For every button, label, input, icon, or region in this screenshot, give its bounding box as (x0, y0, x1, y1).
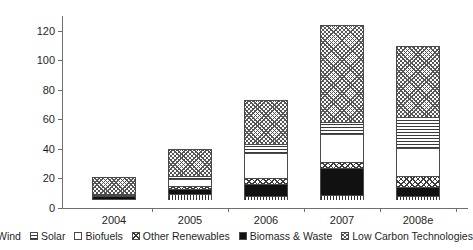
bar-segment (168, 176, 212, 179)
legend-item[interactable]: Other Renewables (132, 231, 230, 242)
x-axis-line (62, 208, 468, 209)
legend-item[interactable]: Wind (0, 231, 21, 242)
y-tick-mark (58, 90, 62, 91)
fine-crosshatch-swatch (341, 232, 349, 240)
bar-segment (320, 195, 364, 200)
x-tick-label: 2005 (178, 214, 202, 226)
x-tick-mark (456, 208, 457, 212)
bar-segment (396, 176, 440, 186)
bar-segment (244, 144, 288, 153)
bar-2004 (92, 177, 136, 200)
y-tick-label: 20 (43, 172, 55, 184)
bar-segment (92, 177, 136, 194)
bar-segment (396, 187, 440, 196)
solid-black-swatch (239, 232, 247, 240)
y-axis-line (62, 16, 63, 208)
bar-segment (244, 100, 288, 144)
x-tick-mark (228, 208, 229, 212)
chart-legend: WindSolarBiofuelsOther RenewablesBiomass… (0, 228, 468, 244)
bar-segment (244, 153, 288, 178)
diagonal-crosshatch-swatch (132, 232, 140, 240)
x-tick-label: 2008e (403, 214, 434, 226)
y-tick-label: 100 (37, 54, 55, 66)
bar-segment (320, 122, 364, 134)
y-tick-label: 80 (43, 84, 55, 96)
legend-item-label: Low Carbon Technologies (352, 231, 473, 242)
legend-item[interactable]: Solar (30, 231, 66, 242)
y-tick-mark (58, 149, 62, 150)
bar-2008e (396, 46, 440, 200)
bar-segment (168, 186, 212, 189)
bar-segment (244, 178, 288, 184)
bar-segment (396, 196, 440, 200)
x-tick-label: 2004 (102, 214, 126, 226)
bar-2007 (320, 25, 364, 200)
y-tick-mark (58, 60, 62, 61)
legend-item-label: Biomass & Waste (250, 231, 332, 242)
legend-item-label: Other Renewables (143, 231, 230, 242)
bar-2006 (244, 100, 288, 200)
horizontal-lines-swatch (30, 232, 38, 240)
y-tick-mark (58, 208, 62, 209)
y-tick-mark (58, 31, 62, 32)
x-tick-mark (380, 208, 381, 212)
y-tick-label: 60 (43, 113, 55, 125)
bar-segment (168, 179, 212, 186)
y-tick-label: 40 (43, 143, 55, 155)
bar-2005 (168, 149, 212, 200)
bar-segment (168, 189, 212, 194)
plot-area: 020406080100120 20042005200620072008e (62, 8, 458, 200)
legend-item-label: Solar (41, 231, 66, 242)
y-tick-label: 120 (37, 25, 55, 37)
y-tick-mark (58, 119, 62, 120)
bar-segment (396, 148, 440, 176)
y-tick-mark (58, 178, 62, 179)
legend-item[interactable]: Biofuels (74, 231, 122, 242)
bar-segment (92, 196, 136, 199)
legend-item[interactable]: Biomass & Waste (239, 231, 332, 242)
bar-segment (168, 194, 212, 200)
legend-item[interactable]: Low Carbon Technologies (341, 231, 473, 242)
legend-item-label: Wind (0, 231, 21, 242)
x-tick-label: 2007 (330, 214, 354, 226)
white-swatch (74, 232, 82, 240)
bar-segment (244, 184, 288, 196)
y-tick-label: 0 (49, 202, 55, 214)
bar-segment (396, 46, 440, 117)
bar-segment (320, 162, 364, 168)
x-tick-label: 2006 (254, 214, 278, 226)
x-tick-mark (304, 208, 305, 212)
x-tick-mark (152, 208, 153, 212)
bar-segment (320, 25, 364, 122)
legend-item-label: Biofuels (85, 231, 122, 242)
bar-segment (320, 168, 364, 195)
bar-segment (320, 134, 364, 162)
bar-segment (396, 117, 440, 148)
bar-segment (244, 196, 288, 200)
bar-segment (168, 149, 212, 176)
